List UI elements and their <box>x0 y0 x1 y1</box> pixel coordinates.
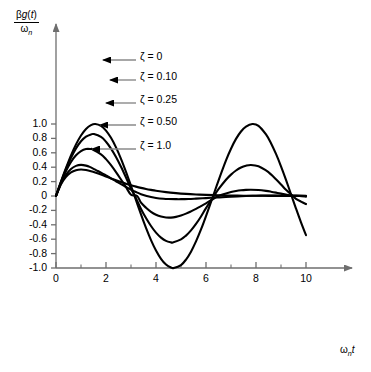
chart-svg <box>0 0 371 372</box>
y-tick-label: -0.4 <box>0 218 47 230</box>
x-tick-label: 2 <box>86 272 126 284</box>
x-tick-label: 6 <box>186 272 226 284</box>
x-axis-label: ωnt <box>340 344 355 358</box>
y-axis-label-numerator: βg(t) <box>14 10 39 23</box>
y-tick-label: -0.2 <box>0 203 47 215</box>
x-tick-label: 8 <box>236 272 276 284</box>
legend-label-0: ζ = 0 <box>140 50 162 62</box>
legend-label-3: ζ = 0.50 <box>140 115 177 127</box>
x-tick-label: 4 <box>136 272 176 284</box>
y-axis-label: βg(t) ωn <box>14 10 39 36</box>
impulse-response-chart <box>0 0 371 372</box>
y-tick-label: -0.6 <box>0 232 47 244</box>
y-tick-label: -0.8 <box>0 247 47 259</box>
legend-label-1: ζ = 0.10 <box>140 70 177 82</box>
x-tick-label: 10 <box>286 272 326 284</box>
y-tick-label: 0 <box>0 189 47 201</box>
curve-series-2 <box>56 149 306 218</box>
legend-label-2: ζ = 0.25 <box>140 93 177 105</box>
y-axis-label-denominator: ωn <box>14 23 39 37</box>
y-tick-label: 0.2 <box>0 175 47 187</box>
y-tick-label: 0.6 <box>0 146 47 158</box>
legend-label-4: ζ = 1.0 <box>140 139 171 151</box>
y-tick-label: 0.4 <box>0 160 47 172</box>
y-tick-label: 0.8 <box>0 131 47 143</box>
y-tick-label: 1.0 <box>0 117 47 129</box>
x-tick-label: 0 <box>36 272 76 284</box>
